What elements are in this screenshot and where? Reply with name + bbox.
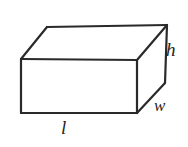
prism-front-face: [21, 59, 137, 113]
edge-front-top: [21, 59, 137, 60]
dimension-label-width: w: [154, 97, 165, 114]
rectangular-prism-figure: [0, 0, 188, 147]
dimension-label-length: l: [61, 118, 66, 137]
dimension-label-height: h: [166, 40, 176, 59]
figure-canvas: h w l: [0, 0, 188, 147]
